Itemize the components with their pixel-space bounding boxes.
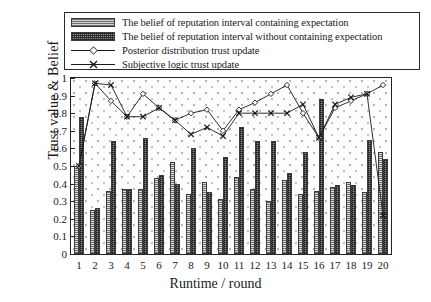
legend-item-belief-containing: The belief of reputation interval contai… <box>71 16 415 29</box>
diamond-marker-icon <box>268 91 273 96</box>
x-tick-label: 7 <box>172 259 178 271</box>
legend-label-belief-containing: The belief of reputation interval contai… <box>122 17 348 29</box>
x-tick-label: 11 <box>234 259 245 271</box>
legend-line-cross-icon <box>71 60 115 69</box>
x-tick-label: 1 <box>76 259 82 271</box>
y-tick-mark <box>71 254 75 255</box>
legend-label-subjective-logic: Subjective logic trust update <box>122 59 239 71</box>
x-tick-label: 12 <box>250 259 261 271</box>
legend-item-subjective-logic: Subjective logic trust update <box>71 58 415 71</box>
line-series-group <box>71 78 391 254</box>
legend-line-diamond-icon <box>71 46 115 55</box>
x-tick-label: 9 <box>204 259 210 271</box>
cross-marker-icon <box>300 102 305 107</box>
diamond-marker-icon <box>89 46 98 55</box>
x-tick-label: 19 <box>362 259 373 271</box>
legend-swatch-dark <box>71 32 115 41</box>
x-tick-label: 10 <box>218 259 229 271</box>
legend-label-belief-without-containing: The belief of reputation interval withou… <box>122 31 382 43</box>
diamond-marker-icon <box>188 111 193 116</box>
x-tick-label: 2 <box>92 259 98 271</box>
x-axis-title: Runtime / round <box>0 276 431 292</box>
x-tick-label: 13 <box>266 259 277 271</box>
cross-marker-icon <box>188 132 193 137</box>
y-tick-label: 0.9 <box>53 90 67 102</box>
y-tick-label: 0.2 <box>53 213 67 225</box>
diamond-marker-icon <box>300 111 305 116</box>
cross-marker-icon <box>89 60 98 69</box>
y-tick-label: 0.6 <box>53 142 67 154</box>
diamond-marker-icon <box>284 82 289 87</box>
chart-legend: The belief of reputation interval contai… <box>64 12 420 70</box>
legend-swatch-light <box>71 18 115 27</box>
x-tick-label: 16 <box>314 259 325 271</box>
y-tick-label: 0.7 <box>53 125 67 137</box>
x-tick-label: 6 <box>156 259 162 271</box>
cross-marker-icon <box>220 133 225 138</box>
legend-item-posterior: Posterior distribution trust update <box>71 44 415 57</box>
line-subjective-logic <box>79 83 383 215</box>
x-tick-label: 5 <box>140 259 146 271</box>
diamond-marker-icon <box>252 100 257 105</box>
x-tick-label: 3 <box>108 259 114 271</box>
x-tick-label: 15 <box>298 259 309 271</box>
y-tick-label: 0.1 <box>53 230 67 242</box>
legend-label-posterior: Posterior distribution trust update <box>122 45 259 57</box>
x-tick-label: 4 <box>124 259 130 271</box>
cross-marker-icon <box>204 125 209 130</box>
x-tick-label: 17 <box>330 259 341 271</box>
y-tick-label: 0.4 <box>53 178 67 190</box>
x-tick-label: 18 <box>346 259 357 271</box>
y-tick-label: 0.3 <box>53 195 67 207</box>
x-tick-label: 20 <box>378 259 389 271</box>
diamond-marker-icon <box>380 82 385 87</box>
legend-item-belief-without-containing: The belief of reputation interval withou… <box>71 30 415 43</box>
x-tick-label: 14 <box>282 259 293 271</box>
y-tick-label: 0.5 <box>53 160 67 172</box>
y-tick-label: 0 <box>62 248 68 260</box>
y-tick-label: 0.8 <box>53 107 67 119</box>
chart-plot-area: 00.10.20.30.40.50.60.70.80.91 1234567891… <box>70 77 392 255</box>
y-tick-label: 1 <box>62 72 68 84</box>
x-tick-label: 8 <box>188 259 194 271</box>
